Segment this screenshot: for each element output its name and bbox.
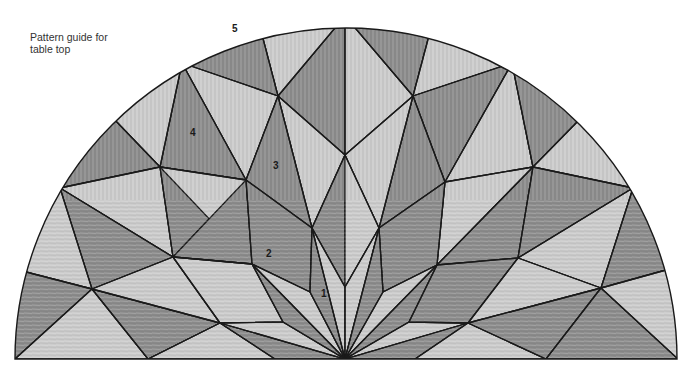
piece-label-4: 4: [190, 127, 196, 138]
pattern-pieces: [0, 0, 695, 378]
piece-label-5: 5: [232, 23, 238, 34]
piece-label-1: 1: [321, 288, 327, 299]
piece-label-2: 2: [266, 248, 272, 259]
piece-label-3: 3: [273, 160, 279, 171]
table-top-pattern: 1 2 3 4 5: [0, 0, 695, 378]
